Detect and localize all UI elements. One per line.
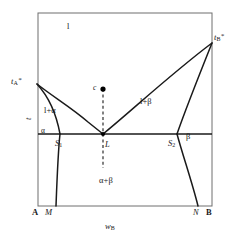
- eutectic-point-marker: [101, 132, 105, 136]
- x-axis-component-b: B: [206, 208, 212, 217]
- label-composition-point-c: c: [93, 84, 96, 92]
- liquidus-curve-right: [103, 43, 212, 134]
- region-label-alpha-plus-beta: α+β: [99, 176, 113, 185]
- x-axis-label-subscript: B: [111, 225, 115, 231]
- solvus-curve-beta: [177, 134, 198, 206]
- label-eutectic-point-l: L: [105, 140, 110, 149]
- x-axis-tick-label-n: N: [193, 208, 199, 217]
- x-axis-component-a: A: [32, 208, 38, 217]
- melting-point-a-superscript: *: [18, 76, 22, 84]
- s1-subscript: 1: [59, 142, 62, 148]
- melting-point-b-superscript: *: [221, 32, 225, 40]
- label-melting-point-a: tA*: [11, 77, 22, 86]
- region-label-alpha: α: [41, 127, 45, 135]
- region-label-beta: β: [186, 132, 190, 141]
- x-axis-label: wB: [105, 222, 115, 231]
- composition-point-marker: [100, 86, 105, 91]
- label-solidus-point-s1: S1: [55, 139, 62, 148]
- phase-diagram-canvas: [0, 0, 239, 242]
- region-label-liquid: l: [67, 22, 69, 31]
- s2-subscript: 2: [172, 142, 175, 148]
- label-melting-point-b: tB*: [214, 33, 224, 42]
- y-axis-label: t: [24, 118, 33, 120]
- label-solidus-point-s2: S2: [168, 139, 175, 148]
- region-label-liquid-plus-beta: l+β: [140, 97, 152, 106]
- region-label-liquid-plus-alpha: l+α: [44, 106, 56, 115]
- x-axis-tick-label-m: M: [45, 208, 52, 217]
- phase-diagram-figure: l l+α l+β α β α+β tA* tB* S1 S2 L c t wB…: [0, 0, 239, 242]
